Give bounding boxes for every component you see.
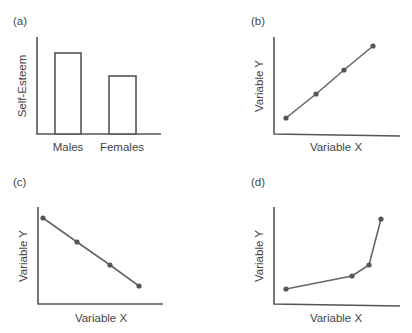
panel-b-xlabel: Variable X [310,141,363,153]
data-point [378,216,383,221]
data-point [283,286,288,291]
data-point [283,115,288,120]
data-point [136,283,141,288]
panel-b-tag: (b) [251,15,265,27]
bar-males [55,53,81,134]
bar-females [109,76,136,134]
panel-d: (d) Variable Y Variable X [251,176,400,324]
data-point [370,43,375,48]
data-point [341,67,346,72]
data-point [40,215,45,220]
panel-c: (c) Variable Y Variable X [13,176,163,324]
panel-d-xlabel: Variable X [310,312,363,324]
panel-a-ylabel: Self-Esteem [16,55,28,118]
panel-c-ylabel: Variable Y [17,230,29,282]
panel-d-line [286,219,381,289]
panel-a-cat-males: Males [53,141,84,153]
data-point [107,262,112,267]
data-point [74,239,79,244]
panel-c-xlabel: Variable X [75,312,128,324]
panel-a: (a) Self-Esteem Males Females [13,15,161,153]
panel-d-ylabel: Variable Y [253,230,265,282]
figure-canvas: (a) Self-Esteem Males Females (b) Variab… [0,0,412,333]
panel-a-tag: (a) [13,15,27,27]
panel-b-line [286,46,373,118]
panel-d-axes [274,207,400,306]
panel-b: (b) Variable Y Variable X [251,15,400,153]
panel-b-axes [274,37,400,136]
panel-c-axes [38,207,163,304]
panel-c-line [43,218,139,286]
data-point [366,262,371,267]
data-point [313,91,318,96]
panel-a-cat-females: Females [100,141,144,153]
panel-c-tag: (c) [13,176,27,188]
panel-b-ylabel: Variable Y [253,60,265,112]
data-point [349,273,354,278]
panel-d-tag: (d) [251,176,265,188]
